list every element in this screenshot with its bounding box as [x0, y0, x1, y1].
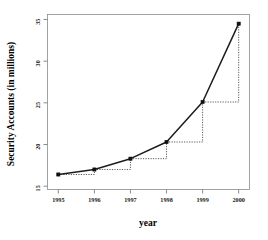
x-tick-label: 1995	[52, 196, 64, 203]
data-point-marker	[93, 168, 96, 171]
y-axis-title: Security Accounts (in millions)	[6, 42, 17, 166]
line-chart: Security Accounts (in millions) year 152…	[0, 0, 268, 240]
y-tick-label: 15	[35, 185, 42, 191]
data-point-marker	[57, 173, 60, 176]
data-point-marker	[165, 140, 168, 143]
x-tick-label: 1996	[88, 196, 100, 203]
chart-background	[0, 0, 268, 240]
x-tick-label: 2000	[232, 196, 244, 203]
x-tick-label: 1999	[196, 196, 208, 203]
chart-container: Security Accounts (in millions) year 152…	[0, 0, 268, 240]
x-tick-label: 1997	[124, 196, 136, 203]
y-tick-label: 25	[35, 102, 42, 108]
y-tick-label: 30	[35, 60, 42, 66]
data-point-marker	[129, 157, 132, 160]
y-tick-label: 20	[35, 144, 42, 150]
data-point-marker	[237, 22, 240, 25]
y-tick-label: 35	[35, 19, 42, 25]
data-point-marker	[201, 100, 204, 103]
x-axis-title: year	[139, 218, 158, 228]
x-tick-label: 1998	[160, 196, 172, 203]
